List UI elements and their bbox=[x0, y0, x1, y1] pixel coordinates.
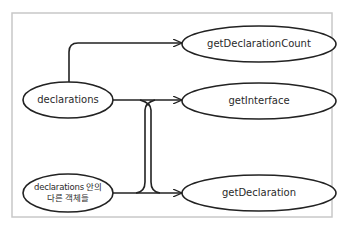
label-other-objects-line2: 다른 객체들 bbox=[34, 193, 102, 204]
label-getInterface: getInterface bbox=[228, 95, 289, 108]
label-declarations: declarations bbox=[37, 94, 99, 107]
label-other-objects: declarations 안의 다른 객체들 bbox=[34, 182, 102, 203]
label-other-objects-line1: declarations 안의 bbox=[34, 182, 102, 193]
label-getDeclaration: getDeclaration bbox=[222, 187, 296, 200]
label-getDeclarationCount: getDeclarationCount bbox=[207, 38, 311, 51]
